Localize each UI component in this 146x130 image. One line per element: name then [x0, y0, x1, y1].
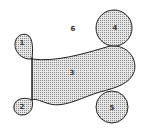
region-5-label: 5	[110, 105, 115, 112]
region-diagram: 1 2 3 4 5 6	[0, 0, 146, 130]
region-6-label: 6	[71, 26, 76, 33]
region-1-label: 1	[20, 40, 25, 47]
diagram-shapes	[0, 0, 146, 130]
region-4-label: 4	[113, 25, 118, 32]
region-2-label: 2	[20, 104, 25, 111]
region-3-label: 3	[70, 70, 75, 77]
